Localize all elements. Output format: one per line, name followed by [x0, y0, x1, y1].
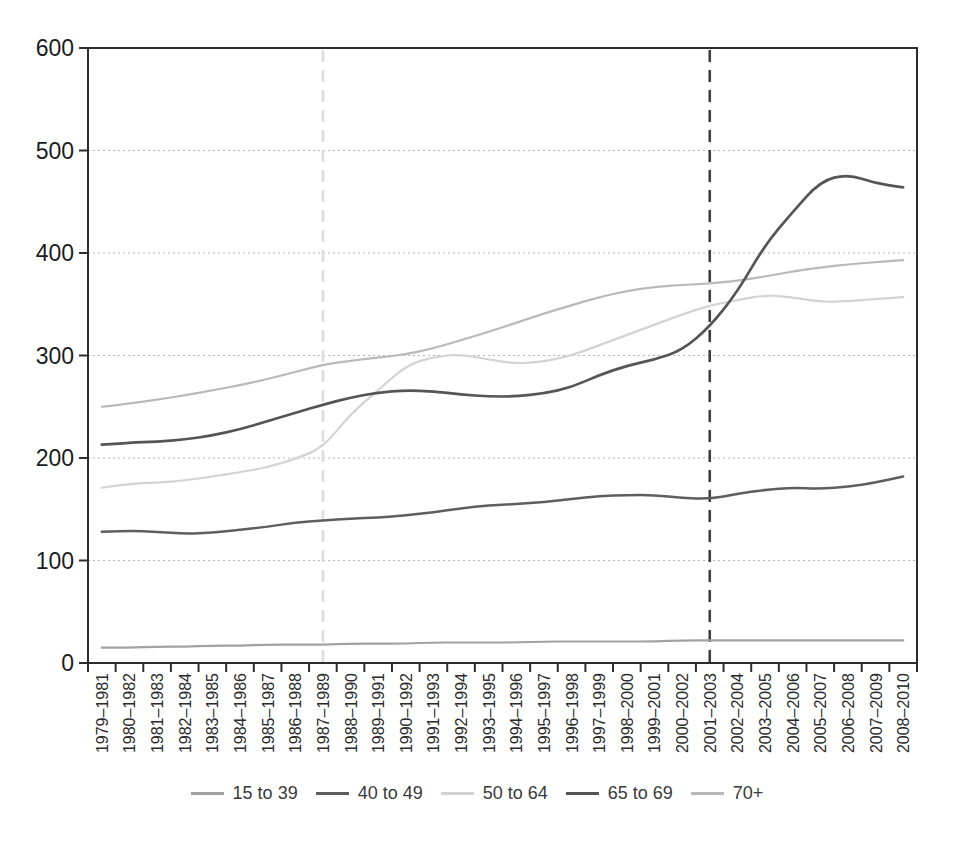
x-tick-label: 2008–2010: [895, 673, 912, 753]
legend-item-40-to-49: 40 to 49: [316, 784, 423, 802]
x-tick-label: 1994–1996: [508, 673, 525, 753]
series-line-50-to-64: [102, 296, 903, 488]
x-tick-label: 1982–1984: [177, 673, 194, 753]
x-tick-label: 2003–2005: [757, 673, 774, 753]
series-line-70+: [102, 260, 903, 407]
legend-item-70+: 70+: [691, 784, 764, 802]
y-tick-label: 0: [61, 650, 74, 676]
x-tick-label: 1991–1993: [425, 673, 442, 753]
legend-label: 40 to 49: [358, 784, 423, 802]
chart-canvas: 01002003004005006001979–19811980–1982198…: [0, 0, 954, 782]
x-tick-label: 2000–2002: [674, 673, 691, 753]
x-tick-label: 1995–1997: [536, 673, 553, 753]
x-tick-label: 1979–1981: [94, 673, 111, 753]
x-tick-label: 2004–2006: [785, 673, 802, 753]
plot-frame: [88, 48, 917, 663]
y-tick-label: 300: [36, 343, 74, 369]
x-tick-label: 1998–2000: [619, 673, 636, 753]
legend-label: 15 to 39: [233, 784, 298, 802]
x-tick-label: 2006–2008: [840, 673, 857, 753]
x-tick-label: 2001–2003: [702, 673, 719, 753]
x-tick-label: 1989–1991: [370, 673, 387, 753]
series-line-40-to-49: [102, 476, 903, 533]
x-tick-label: 1983–1985: [204, 673, 221, 753]
x-tick-label: 1980–1982: [121, 673, 138, 753]
x-tick-label: 1997–1999: [591, 673, 608, 753]
legend-swatch: [691, 792, 724, 795]
legend-label: 50 to 64: [483, 784, 548, 802]
x-tick-label: 1996–1998: [564, 673, 581, 753]
legend-item-50-to-64: 50 to 64: [441, 784, 548, 802]
y-tick-label: 100: [36, 548, 74, 574]
legend-label: 70+: [733, 784, 764, 802]
x-tick-label: 1992–1994: [453, 673, 470, 753]
legend-label: 65 to 69: [608, 784, 673, 802]
legend-swatch: [566, 792, 599, 795]
legend-item-65-to-69: 65 to 69: [566, 784, 673, 802]
line-chart-figure: 01002003004005006001979–19811980–1982198…: [0, 0, 954, 844]
series-line-65-to-69: [102, 176, 903, 445]
legend-swatch: [316, 792, 349, 795]
y-tick-label: 400: [36, 240, 74, 266]
x-tick-label: 1990–1992: [398, 673, 415, 753]
legend-swatch: [191, 792, 224, 795]
legend-item-15-to-39: 15 to 39: [191, 784, 298, 802]
x-tick-label: 1986–1988: [287, 673, 304, 753]
x-tick-label: 2002–2004: [729, 673, 746, 753]
legend-swatch: [441, 792, 474, 795]
x-tick-label: 2005–2007: [812, 673, 829, 753]
x-tick-label: 1981–1983: [149, 673, 166, 753]
x-tick-label: 1984–1986: [232, 673, 249, 753]
chart-legend: 15 to 3940 to 4950 to 6465 to 6970+: [0, 784, 954, 802]
x-tick-label: 1993–1995: [481, 673, 498, 753]
y-tick-label: 200: [36, 445, 74, 471]
series-line-15-to-39: [102, 640, 903, 647]
y-tick-label: 600: [36, 35, 74, 61]
x-tick-label: 1999–2001: [646, 673, 663, 753]
y-tick-label: 500: [36, 138, 74, 164]
x-tick-label: 2007–2009: [868, 673, 885, 753]
x-tick-label: 1987–1989: [315, 673, 332, 753]
x-tick-label: 1985–1987: [260, 673, 277, 753]
x-tick-label: 1988–1990: [343, 673, 360, 753]
